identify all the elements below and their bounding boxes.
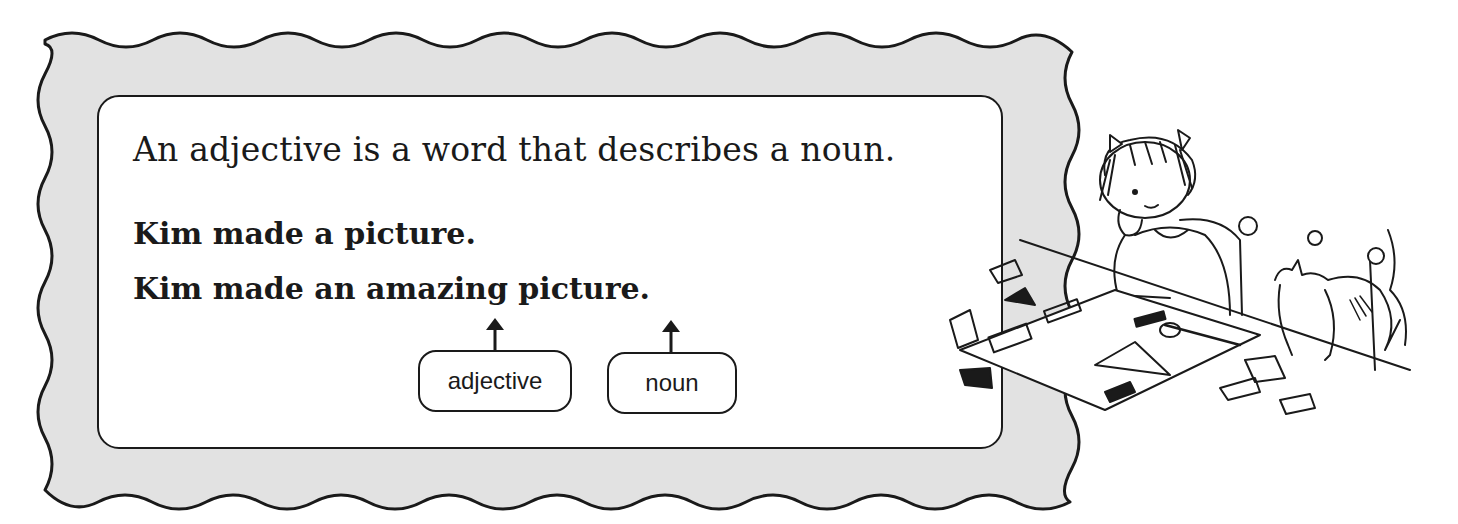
adjective-label: adjective	[418, 350, 572, 412]
girl-with-cat-illustration	[930, 120, 1430, 420]
noun-label: noun	[607, 352, 737, 414]
arrow-up-icon	[661, 320, 681, 356]
definition-text: An adjective is a word that describes a …	[133, 130, 895, 169]
arrow-up-icon	[485, 318, 505, 354]
example-sentence-plain: Kim made a picture.	[133, 216, 476, 251]
example-sentence-adjective: Kim made an amazing picture.	[133, 271, 650, 306]
